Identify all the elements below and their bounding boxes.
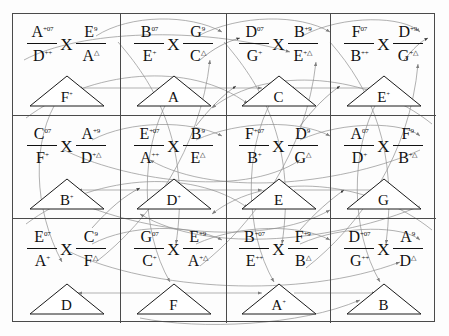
fraction-bar — [27, 43, 57, 44]
superscript: + — [45, 151, 49, 159]
superscript: ++ — [256, 254, 263, 262]
chord-cell-r3c3[interactable]: B+07E++XF+9B△A+ — [227, 219, 331, 323]
fraction-bar — [76, 248, 106, 249]
chord-expression: B07E+XG9C△ — [121, 24, 226, 64]
fraction-bar — [344, 43, 374, 44]
fraction: E9A△ — [76, 24, 106, 64]
triangle-node-D[interactable]: D — [29, 283, 105, 315]
denominator-left: B+ — [247, 150, 261, 166]
triangle-node-B[interactable]: B — [346, 283, 422, 315]
triangle-node-F[interactable]: F+ — [29, 75, 105, 107]
multiply-operator: X — [376, 240, 390, 260]
denominator-left: A+ — [35, 253, 50, 269]
numerator-left: C07 — [34, 126, 51, 142]
chord-cell-r3c2[interactable]: G07C+XE+9A+△F — [121, 219, 227, 323]
fraction-bar — [239, 248, 269, 249]
superscript: 9 — [412, 230, 415, 238]
fraction: F9B+△ — [393, 126, 423, 166]
denominator-right: C△ — [190, 48, 205, 64]
fraction-bar — [288, 248, 318, 249]
superscript: +9 — [199, 230, 206, 238]
numerator-right: F9 — [402, 126, 414, 142]
chord-cell-r3c4[interactable]: D+07G++XA9D△B — [331, 219, 436, 323]
triangle-node-A[interactable]: A — [136, 75, 212, 107]
superscript: +△ — [409, 151, 417, 159]
superscript: 07 — [257, 25, 263, 33]
triangle-node-A[interactable]: A+ — [241, 283, 317, 315]
numerator-left: D07 — [245, 24, 263, 40]
chord-cell-r1c2[interactable]: B07E+XG9C△A — [121, 14, 227, 116]
chord-cell-r2c1[interactable]: C07F+XA+9D+△B+ — [13, 116, 121, 219]
fraction: B+9E+△ — [288, 24, 318, 64]
numerator-left: E07 — [34, 229, 50, 245]
diagram-canvas: A+07D++XE9A△F+B07E+XG9C△AD07G+XB+9E+△CF0… — [0, 0, 449, 336]
fraction-bar — [27, 145, 57, 146]
chord-expression: E+07A++XB9E△ — [121, 126, 226, 166]
fraction: F+9B△ — [288, 229, 318, 269]
fraction-bar — [393, 145, 423, 146]
superscript: +△ — [409, 49, 417, 57]
multiply-operator: X — [59, 137, 73, 157]
fraction-bar — [239, 43, 269, 44]
numerator-right: A+9 — [81, 126, 99, 142]
denominator-right: G△ — [295, 150, 311, 166]
fraction: D+07G++ — [344, 229, 374, 269]
superscript: +9 — [93, 127, 100, 135]
triangle-label: F+ — [29, 90, 105, 105]
chord-cell-r1c1[interactable]: A+07D++XE9A△F+ — [13, 14, 121, 116]
superscript: +07 — [149, 127, 159, 135]
chord-cell-r2c3[interactable]: F+07B+XD9G△E — [227, 116, 331, 219]
triangle-node-E[interactable]: E+ — [346, 75, 422, 107]
numerator-right: F+9 — [295, 229, 311, 245]
chord-expression: D07G+XB+9E+△ — [227, 24, 330, 64]
fraction-bar — [183, 145, 213, 146]
superscript: + — [152, 49, 156, 57]
fraction-bar — [134, 43, 164, 44]
denominator-right: E△ — [190, 150, 204, 166]
triangle-node-D[interactable]: D+ — [136, 178, 212, 210]
triangle-label: E — [241, 193, 317, 208]
denominator-left: D+ — [352, 150, 367, 166]
triangle-node-F[interactable]: F — [136, 283, 212, 315]
fraction: F07B++ — [344, 24, 374, 64]
chord-cell-r1c3[interactable]: D07G+XB+9E+△C — [227, 14, 331, 116]
superscript: 07 — [361, 25, 367, 33]
chord-cell-r1c4[interactable]: F07B++XD+9G+△E+ — [331, 14, 436, 116]
chord-cell-r3c1[interactable]: E07A+XC9F△D — [13, 219, 121, 323]
denominator-left: F+ — [36, 150, 49, 166]
superscript: +9 — [410, 25, 417, 33]
denominator-right: B+△ — [398, 150, 417, 166]
superscript: +07 — [360, 230, 370, 238]
triangle-label: E+ — [346, 90, 422, 105]
superscript: 07 — [152, 230, 158, 238]
chord-expression: D+07G++XA9D△ — [331, 229, 436, 269]
triangle-node-G[interactable]: G — [346, 178, 422, 210]
superscript: +07 — [254, 127, 264, 135]
triangle-node-B[interactable]: B+ — [29, 178, 105, 210]
denominator-right: A△ — [83, 48, 99, 64]
superscript: 9 — [201, 127, 204, 135]
numerator-right: E+9 — [189, 229, 206, 245]
triangle-label: G — [346, 193, 422, 208]
fraction: D9G△ — [288, 126, 318, 166]
triangle-label: B — [346, 298, 422, 313]
denominator-right: E+△ — [294, 48, 312, 64]
triangle-label: A — [136, 90, 212, 105]
numerator-left: D+07 — [349, 229, 371, 245]
numerator-left: G07 — [140, 229, 158, 245]
fraction: A07D+ — [344, 126, 374, 166]
chord-cell-r2c4[interactable]: A07D+XF9B+△G — [331, 116, 436, 219]
fraction: F+07B+ — [239, 126, 269, 166]
chord-cell-r2c2[interactable]: E+07A++XB9E△D+ — [121, 116, 227, 219]
denominator-left: G++ — [350, 253, 369, 269]
denominator-left: D++ — [33, 48, 52, 64]
triangle-node-E[interactable]: E — [241, 178, 317, 210]
triangle-node-C[interactable]: C — [241, 75, 317, 107]
superscript: + — [363, 151, 367, 159]
fraction-bar — [134, 248, 164, 249]
fraction: C9F△ — [76, 229, 106, 269]
fraction-bar — [183, 248, 213, 249]
superscript: 9 — [410, 127, 413, 135]
superscript: 07 — [44, 127, 50, 135]
numerator-left: A+07 — [32, 24, 54, 40]
